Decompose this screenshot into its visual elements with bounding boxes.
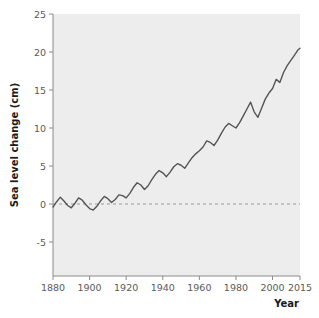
y-axis-tick-label: 5 [40,161,46,172]
y-axis-tick-label: 25 [34,9,46,20]
x-axis-tick-label: 1940 [151,282,175,293]
sea-level-chart-figure: -50510152025 188019001920194019601980200… [0,0,319,318]
x-axis-tick-label: 1960 [187,282,211,293]
y-axis-tick-label: 15 [34,85,46,96]
y-axis-title: Sea level change (cm) [9,83,20,207]
plot-background [53,14,300,276]
x-axis-tick-label: 2000 [260,282,284,293]
y-axis-tick-label: 10 [34,123,46,134]
x-axis: 18801900192019401960198020002015 [41,276,312,293]
x-axis-tick-label: 1900 [77,282,101,293]
chart-canvas: -50510152025 188019001920194019601980200… [0,0,319,318]
y-axis-tick-label: -5 [37,237,46,248]
x-axis-tick-label: 1920 [114,282,138,293]
x-axis-tick-label: 1880 [41,282,65,293]
x-axis-title: Year [273,298,299,309]
y-axis-tick-label: 20 [34,47,46,58]
x-axis-tick-label: 2015 [288,282,312,293]
y-axis: -50510152025 [34,9,53,248]
x-axis-tick-label: 1980 [224,282,248,293]
y-axis-tick-label: 0 [40,199,46,210]
